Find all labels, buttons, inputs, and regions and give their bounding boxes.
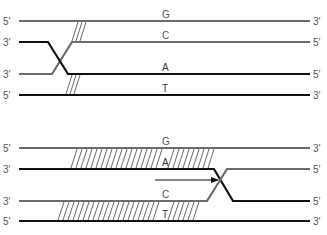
bottom-t-right-end: 3′	[313, 216, 321, 227]
top-c-left-end: 3′	[3, 37, 11, 48]
top-t-left-end: 5′	[3, 90, 11, 101]
top-t-right-end: 3′	[313, 90, 321, 101]
top-g-left-end: 5′	[3, 16, 11, 27]
top-base-g: G	[162, 9, 170, 20]
bottom-base-c: C	[162, 189, 169, 200]
bottom-base-a: A	[162, 157, 169, 168]
bottom-a-right-end: 5′	[313, 196, 321, 207]
bottom-c-right-end: 5′	[313, 164, 321, 175]
bottom-hatch-upper	[71, 149, 214, 168]
top-hatch-lower	[66, 75, 80, 94]
top-base-c: C	[162, 30, 169, 41]
top-panel: 5′ 3′ 3′ 5′ 3′ 5′ 5′ 3′ G C A T	[3, 9, 321, 101]
top-a-left-end: 3′	[3, 69, 11, 80]
top-c-right-end: 5′	[313, 37, 321, 48]
top-hatch-upper	[72, 22, 86, 41]
top-g-right-end: 3′	[313, 16, 321, 27]
bottom-g-left-end: 5′	[3, 143, 11, 154]
bottom-hatch-lower	[58, 202, 199, 220]
top-base-t: T	[162, 83, 168, 94]
bottom-base-g: G	[162, 136, 170, 147]
bottom-base-t: T	[162, 209, 168, 220]
top-a-right-end: 5′	[313, 69, 321, 80]
bottom-c-left-end: 3′	[3, 196, 11, 207]
bottom-g-right-end: 3′	[313, 143, 321, 154]
bottom-t-left-end: 5′	[3, 216, 11, 227]
bottom-a-left-end: 3′	[3, 164, 11, 175]
top-base-a: A	[162, 62, 169, 73]
holliday-junction-diagram: 5′ 3′ 3′ 5′ 3′ 5′ 5′ 3′ G C A T	[0, 0, 327, 235]
bottom-panel: 5′ 3′ 3′ 5′ 3′ 5′ 5′ 3′ G A C T	[3, 136, 321, 227]
